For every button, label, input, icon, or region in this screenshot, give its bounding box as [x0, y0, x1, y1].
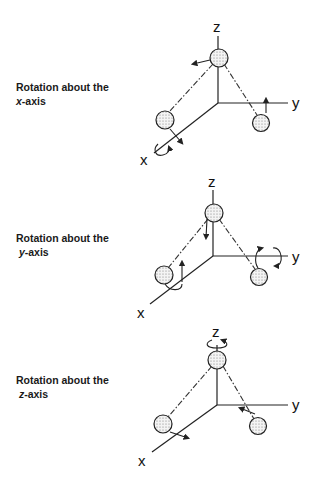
- atom-sphere-left: [155, 266, 173, 284]
- axis-label-y: y: [292, 396, 300, 413]
- motion-arrow-icon: [256, 248, 262, 268]
- axis-label-y: y: [292, 248, 300, 265]
- bond-dashed: [168, 366, 212, 417]
- motion-arrow-icon: [170, 129, 182, 143]
- bond-dashed: [219, 219, 255, 269]
- axis-label-y: y: [292, 94, 300, 111]
- axis-label-x: x: [138, 452, 146, 469]
- bond-dashed: [168, 64, 213, 113]
- atom-sphere-right: [250, 418, 267, 435]
- atom-sphere-left: [156, 111, 174, 129]
- diagram-y-rotation: z y x: [137, 173, 300, 321]
- bond-dashed: [168, 219, 208, 268]
- bond-dashed: [224, 64, 257, 115]
- axis-label-x: x: [137, 304, 145, 321]
- bond-dashed: [223, 366, 254, 419]
- atom-sphere-top: [210, 49, 228, 67]
- axis-label-x: x: [140, 151, 148, 168]
- atom-sphere-top: [205, 204, 223, 222]
- molecule-rotation-diagrams: z y x z y x z y x: [0, 0, 317, 479]
- rotation-arrow-icon: [273, 248, 281, 266]
- axis-label-z: z: [208, 173, 216, 190]
- atom-sphere-left: [154, 415, 172, 433]
- atom-sphere-top: [208, 351, 226, 369]
- atom-sphere-right: [251, 269, 268, 286]
- diagram-x-rotation: z y x: [140, 18, 300, 168]
- axis-label-z: z: [213, 18, 221, 35]
- motion-arrow-icon: [193, 60, 210, 64]
- atom-sphere-right: [253, 115, 270, 132]
- rotation-arrow-icon: [155, 144, 169, 155]
- axis-label-z: z: [212, 323, 220, 340]
- diagram-z-rotation: z y x: [138, 323, 300, 469]
